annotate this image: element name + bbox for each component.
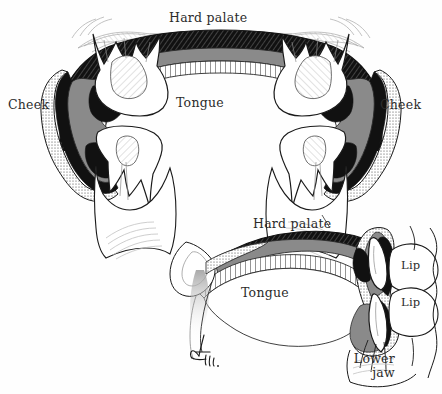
anatomy-illustration: [0, 0, 442, 394]
upper-lip: [389, 244, 438, 292]
right-lower-molar-pulp: [303, 136, 325, 166]
left-lower-molar-pulp: [116, 136, 138, 166]
anatomy-figure: Hard palate Cheek Cheek Tongue Hard pala…: [0, 0, 442, 394]
lower-lip: [389, 288, 438, 336]
